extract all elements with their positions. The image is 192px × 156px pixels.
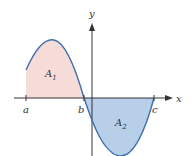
point-a-label: a <box>23 104 29 115</box>
x-axis-arrow-icon <box>165 95 173 101</box>
y-axis-label: y <box>88 8 95 19</box>
region-a1 <box>26 40 84 98</box>
area-diagram: x y a b c A1 A2 <box>0 0 192 156</box>
point-b-label: b <box>78 104 84 115</box>
point-c-label: c <box>152 104 158 115</box>
y-axis-arrow-icon <box>89 23 95 31</box>
x-axis-label: x <box>176 93 182 104</box>
